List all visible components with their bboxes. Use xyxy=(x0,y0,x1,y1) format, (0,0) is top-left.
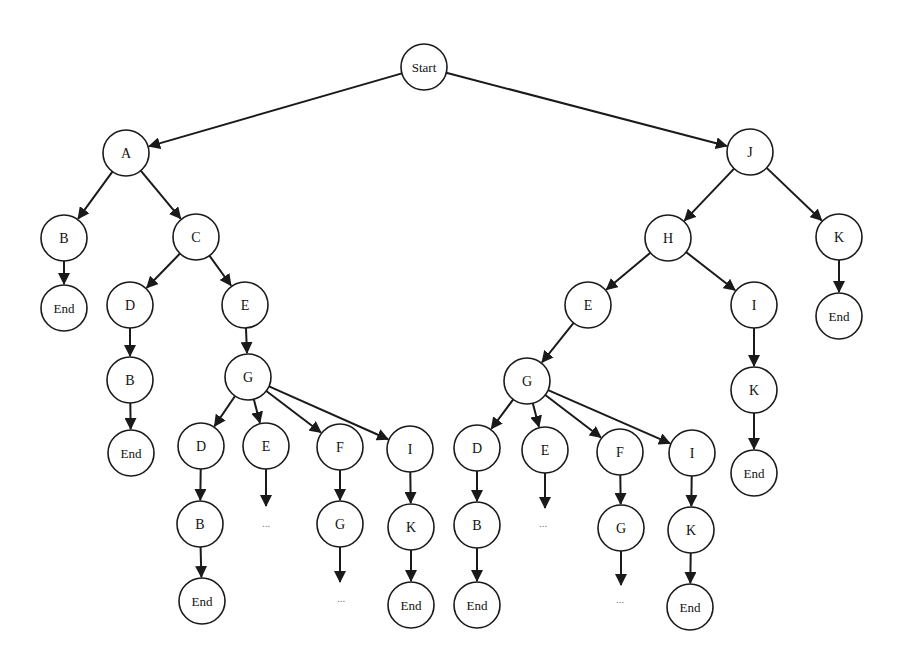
node-h_i_k_end: End xyxy=(731,450,777,496)
node-label: H xyxy=(663,231,673,246)
ellipsis-label: ... xyxy=(539,517,548,529)
node-lg_d: D xyxy=(178,423,224,469)
edge-a_c-to-c_d xyxy=(147,254,180,288)
node-label: End xyxy=(467,598,488,613)
node-lg_i_k_end: End xyxy=(388,582,434,628)
node-label: End xyxy=(54,301,75,316)
node-label: E xyxy=(262,439,271,454)
node-rg_d_b: B xyxy=(454,502,500,548)
edge-h_e_g-to-rg_e xyxy=(533,403,539,427)
node-rg_f: F xyxy=(597,429,643,475)
node-label: D xyxy=(196,439,206,454)
node-label: K xyxy=(686,523,696,538)
node-a_b_end: End xyxy=(41,285,87,331)
node-label: B xyxy=(472,518,481,533)
node-label: A xyxy=(121,146,132,161)
node-rg_e: E xyxy=(522,427,568,473)
node-lg_e: E xyxy=(243,423,289,469)
node-h_e: E xyxy=(565,282,611,328)
node-lg_i_k: K xyxy=(388,504,434,550)
node-rg_i_k: K xyxy=(668,507,714,553)
node-label: End xyxy=(744,466,765,481)
edge-j_h-to-h_e xyxy=(606,253,650,290)
node-a: A xyxy=(103,130,149,176)
node-label: B xyxy=(125,373,134,388)
edge-j_h-to-h_i xyxy=(686,252,735,290)
node-label: K xyxy=(834,230,844,245)
node-label: I xyxy=(752,298,757,313)
node-label: Start xyxy=(412,60,437,75)
node-label: D xyxy=(125,298,135,313)
node-label: K xyxy=(406,520,416,535)
node-label: G xyxy=(616,521,626,536)
edge-c_e-to-c_e_g xyxy=(246,328,247,353)
ellipsis-label: ... xyxy=(262,517,271,529)
edge-j-to-j_k xyxy=(767,168,822,221)
node-label: D xyxy=(472,441,482,456)
edge-a-to-a_c xyxy=(141,171,181,219)
node-j_h: H xyxy=(645,215,691,261)
node-lg_d_b_end: End xyxy=(179,578,225,624)
node-label: E xyxy=(541,443,550,458)
node-label: End xyxy=(829,309,850,324)
node-label: End xyxy=(401,598,422,613)
ellipsis-label: ... xyxy=(616,593,625,605)
node-label: End xyxy=(121,446,142,461)
node-label: F xyxy=(616,445,624,460)
node-h_i: I xyxy=(731,282,777,328)
edge-start-to-a xyxy=(149,73,402,146)
node-rg_d_b_end: End xyxy=(454,582,500,628)
node-j_k_end: End xyxy=(816,293,862,339)
node-label: I xyxy=(690,446,695,461)
node-lg_f_g: G xyxy=(317,501,363,547)
node-label: End xyxy=(680,600,701,615)
node-c_d: D xyxy=(107,282,153,328)
node-label: K xyxy=(749,383,759,398)
ellipsis-label: ... xyxy=(337,592,346,604)
node-c_e_g: G xyxy=(225,354,271,400)
edge-h_e_g-to-rg_d xyxy=(491,399,513,428)
node-label: B xyxy=(59,231,68,246)
edge-start-to-j xyxy=(446,73,727,146)
node-a_b: B xyxy=(41,215,87,261)
node-c_e: E xyxy=(222,282,268,328)
node-label: End xyxy=(192,594,213,609)
node-label: F xyxy=(336,440,344,455)
node-label: G xyxy=(243,370,253,385)
node-lg_f: F xyxy=(317,424,363,470)
node-rg_i_k_end: End xyxy=(667,584,713,630)
node-label: C xyxy=(191,230,200,245)
node-label: E xyxy=(584,298,593,313)
edge-j-to-j_h xyxy=(685,169,735,221)
edge-c_e_g-to-lg_e xyxy=(254,399,260,423)
node-j: J xyxy=(727,129,773,175)
edge-lg_d_b-to-lg_d_b_end xyxy=(201,547,202,577)
node-rg_i: I xyxy=(669,430,715,476)
node-label: B xyxy=(195,517,204,532)
node-lg_d_b: B xyxy=(177,501,223,547)
edge-c_e_g-to-lg_d xyxy=(215,396,236,426)
edges-layer xyxy=(64,73,839,583)
node-c_d_b_end: End xyxy=(108,430,154,476)
node-a_c: C xyxy=(173,214,219,260)
edge-a-to-a_b xyxy=(78,172,112,219)
node-label: J xyxy=(747,145,753,160)
continuations-layer: ............ xyxy=(262,469,625,605)
node-h_i_k: K xyxy=(731,367,777,413)
node-h_e_g: G xyxy=(504,358,550,404)
node-j_k: K xyxy=(816,214,862,260)
node-label: E xyxy=(241,298,250,313)
node-label: I xyxy=(408,442,413,457)
node-c_d_b: B xyxy=(107,357,153,403)
tree-diagram: ............ StartAJBCEndDEBEndGDEFIBGKE… xyxy=(0,0,908,665)
edge-h_e-to-h_e_g xyxy=(542,323,574,362)
node-rg_f_g: G xyxy=(598,505,644,551)
edge-a_c-to-c_e xyxy=(209,256,231,286)
node-label: G xyxy=(522,374,532,389)
node-lg_i: I xyxy=(387,426,433,472)
nodes-layer: StartAJBCEndDEBEndGDEFIBGKEndEndHKEndEIK… xyxy=(41,44,862,630)
node-start: Start xyxy=(401,44,447,90)
node-label: G xyxy=(335,517,345,532)
node-rg_d: D xyxy=(454,425,500,471)
